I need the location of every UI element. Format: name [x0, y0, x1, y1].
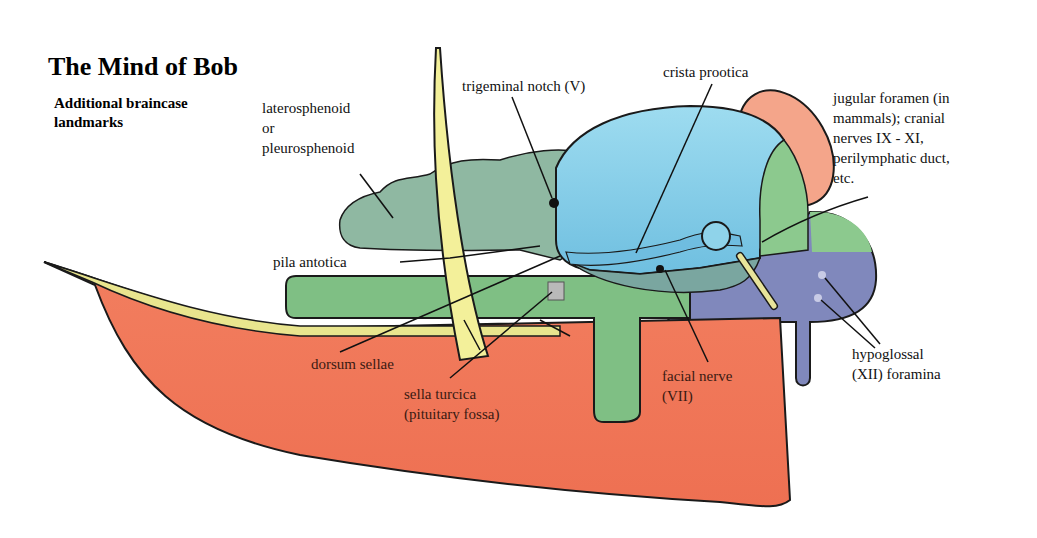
label-sella-turcica: sella turcica (pituitary fossa) — [404, 384, 499, 424]
hypoglossal-foramen-1 — [818, 271, 826, 279]
label-jugular-foramen: jugular foramen (in mammals); cranial ne… — [833, 88, 950, 188]
label-crista-prootica: crista prootica — [663, 62, 748, 82]
label-laterosphenoid: laterosphenoid or pleurosphenoid — [262, 98, 354, 158]
exoccipital-green-top — [810, 212, 872, 252]
page-subtitle: Additional braincase landmarks — [54, 94, 188, 132]
trigeminal-foramen-dot — [549, 198, 559, 208]
label-dorsum-sellae: dorsum sellae — [311, 354, 394, 374]
label-facial-nerve: facial nerve (VII) — [662, 366, 732, 406]
label-pila-antotica: pila antotica — [273, 252, 347, 272]
label-hypoglossal: hypoglossal (XII) foramina — [852, 344, 941, 384]
page-title: The Mind of Bob — [48, 52, 238, 82]
fenestra-ovalis — [702, 222, 730, 250]
label-trigeminal-notch: trigeminal notch (V) — [462, 76, 585, 96]
facial-foramen-dot — [656, 265, 664, 273]
sella-turcica-block — [548, 282, 564, 300]
